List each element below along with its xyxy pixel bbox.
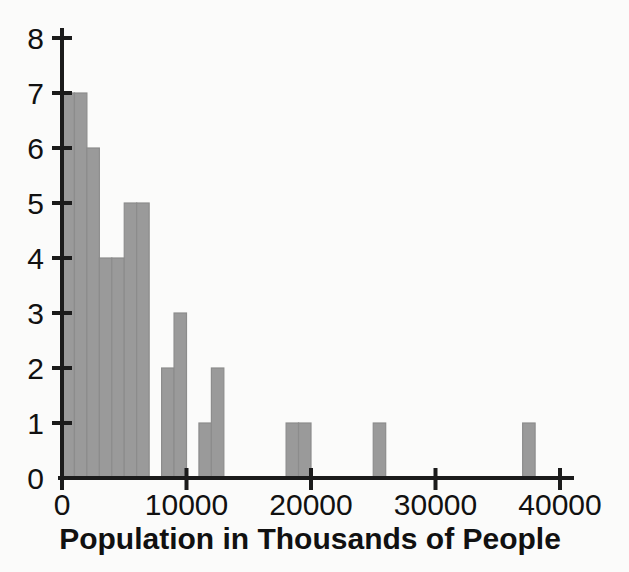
histogram-bar [137, 203, 149, 478]
y-tick-label: 2 [27, 352, 44, 385]
y-tick-label: 8 [27, 22, 44, 55]
histogram-bar [286, 423, 298, 478]
x-tick-label: 20000 [269, 488, 352, 521]
histogram-bar [124, 203, 136, 478]
x-tick-label: 30000 [394, 488, 477, 521]
chart-canvas: 012345678 010000200003000040000 Populati… [0, 0, 629, 572]
histogram-bar [74, 93, 86, 478]
x-tick-label: 40000 [518, 488, 601, 521]
histogram-bar [112, 258, 124, 478]
x-tick-label: 0 [54, 488, 71, 521]
histogram-bar [162, 368, 174, 478]
histogram-chart: 012345678 010000200003000040000 Populati… [0, 0, 629, 572]
histogram-bar [373, 423, 385, 478]
y-tick-label: 6 [27, 132, 44, 165]
histogram-bar [87, 148, 99, 478]
histogram-bar [199, 423, 211, 478]
histogram-bar [523, 423, 535, 478]
y-tick-label: 0 [27, 462, 44, 495]
histogram-bar [211, 368, 223, 478]
x-tick-label: 10000 [145, 488, 228, 521]
histogram-bar [99, 258, 111, 478]
histogram-bar [174, 313, 186, 478]
y-tick-label: 3 [27, 297, 44, 330]
y-tick-label: 5 [27, 187, 44, 220]
y-tick-label: 4 [27, 242, 44, 275]
x-axis-title: Population in Thousands of People [59, 522, 561, 555]
y-tick-label: 1 [27, 407, 44, 440]
y-tick-label: 7 [27, 77, 44, 110]
